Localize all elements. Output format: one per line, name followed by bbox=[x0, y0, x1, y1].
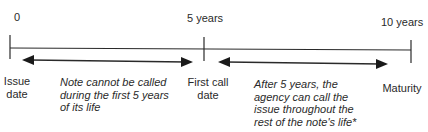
caption-line: Maturity bbox=[378, 82, 426, 95]
note-line: rest of the note's life* bbox=[254, 116, 364, 129]
note-callable-period: After 5 years, the agency can call the i… bbox=[254, 78, 364, 128]
caption-line: Issue bbox=[2, 75, 32, 88]
double-arrow-callable-period bbox=[218, 57, 388, 69]
caption-maturity: Maturity bbox=[378, 82, 426, 95]
note-line: agency can call the bbox=[254, 91, 364, 104]
caption-line: date bbox=[182, 89, 234, 102]
tick-label-5-years: 5 years bbox=[187, 12, 223, 24]
timeline-axis bbox=[10, 48, 411, 50]
note-line: during the first 5 years bbox=[60, 89, 180, 102]
tick-label-10-years: 10 years bbox=[381, 16, 423, 28]
double-arrow-no-call-period bbox=[22, 55, 193, 67]
tick-label-0: 0 bbox=[14, 11, 20, 23]
caption-line: date bbox=[2, 88, 32, 101]
note-line: Note cannot be called bbox=[60, 76, 180, 89]
note-line: After 5 years, the bbox=[254, 78, 364, 91]
note-no-call-period: Note cannot be called during the first 5… bbox=[60, 76, 180, 114]
note-line: issue throughout the bbox=[254, 103, 364, 116]
caption-issue-date: Issue date bbox=[2, 75, 32, 100]
note-line: of its life bbox=[60, 101, 180, 114]
caption-line: First call bbox=[182, 76, 234, 89]
caption-first-call-date: First call date bbox=[182, 76, 234, 101]
